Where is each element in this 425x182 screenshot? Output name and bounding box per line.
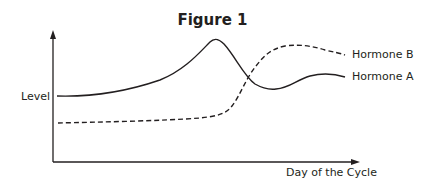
series-label-hormone-b: Hormone B (352, 48, 414, 61)
series-hormone-a-line (57, 39, 345, 96)
chart-plot (0, 0, 425, 182)
series-label-hormone-a: Hormone A (352, 70, 414, 83)
y-axis-arrow-icon (50, 30, 56, 39)
x-axis-arrow-icon (351, 159, 360, 165)
y-axis-label: Level (21, 90, 50, 103)
series-hormone-b-line (58, 45, 345, 123)
x-axis-label: Day of the Cycle (286, 166, 377, 179)
